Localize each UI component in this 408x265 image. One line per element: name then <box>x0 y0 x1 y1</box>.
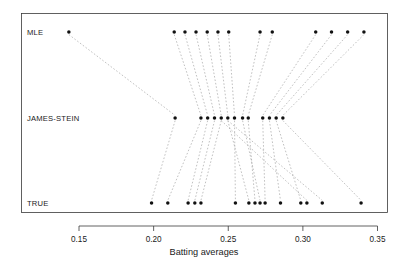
data-point <box>258 201 262 205</box>
data-point <box>274 116 278 120</box>
data-point <box>247 116 251 120</box>
x-tick-label: 0.35 <box>370 235 386 244</box>
data-point <box>305 201 309 205</box>
data-point <box>247 201 251 205</box>
data-point <box>166 201 170 205</box>
row-label-true: TRUE <box>27 199 48 208</box>
data-point <box>281 116 285 120</box>
row-label-mle: MLE <box>27 28 43 37</box>
data-point <box>199 201 203 205</box>
data-point <box>253 201 257 205</box>
x-tick-label: 0.15 <box>71 235 87 244</box>
data-point <box>299 201 303 205</box>
data-point <box>186 201 190 205</box>
data-point <box>205 30 209 34</box>
x-tick-label: 0.30 <box>295 235 311 244</box>
data-point <box>67 30 71 34</box>
data-point <box>194 30 198 34</box>
x-tick-label: 0.25 <box>220 235 236 244</box>
data-point <box>150 201 154 205</box>
data-point <box>263 201 267 205</box>
data-point <box>271 30 275 34</box>
data-point <box>261 116 265 120</box>
data-point <box>193 201 197 205</box>
data-point <box>172 30 176 34</box>
data-point <box>219 116 223 120</box>
data-point <box>241 116 245 120</box>
chart-root: MLEJAMES-STEINTRUE 0.150.200.250.300.35 … <box>0 0 408 265</box>
data-point <box>206 116 210 120</box>
data-point <box>216 30 220 34</box>
data-point <box>233 116 237 120</box>
plot-background <box>0 0 408 265</box>
data-point <box>258 30 262 34</box>
data-point <box>173 116 177 120</box>
data-point <box>199 116 203 120</box>
batting-averages-shrinkage-plot: MLEJAMES-STEINTRUE 0.150.200.250.300.35 … <box>0 0 408 265</box>
data-point <box>330 30 334 34</box>
data-point <box>314 30 318 34</box>
data-point <box>213 116 217 120</box>
x-tick-label: 0.20 <box>146 235 162 244</box>
data-point <box>226 116 230 120</box>
x-axis-title: Batting averages <box>170 247 239 257</box>
data-point <box>268 116 272 120</box>
data-point <box>234 201 238 205</box>
data-point <box>227 30 231 34</box>
data-point <box>359 201 363 205</box>
data-point <box>279 201 283 205</box>
data-point <box>346 30 350 34</box>
row-label-james-stein: JAMES-STEIN <box>27 114 79 123</box>
data-point <box>183 30 187 34</box>
data-point <box>362 30 366 34</box>
data-point <box>321 201 325 205</box>
